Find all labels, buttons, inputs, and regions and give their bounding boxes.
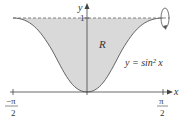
x-right-tick-denominator: 2 bbox=[160, 108, 165, 118]
y-tick-label: 1 bbox=[80, 13, 85, 23]
y-axis-label: y bbox=[77, 2, 83, 13]
volume-of-revolution-diagram: y 1 x R y = sin² x −π 2 π 2 bbox=[0, 0, 181, 119]
y-axis-arrow-icon bbox=[85, 3, 90, 9]
x-left-tick-numerator: −π bbox=[6, 96, 16, 106]
region-label: R bbox=[98, 38, 106, 50]
shaded-region-r bbox=[13, 18, 163, 92]
x-right-tick-numerator: π bbox=[159, 96, 164, 106]
x-axis-label: x bbox=[173, 86, 179, 97]
x-axis-arrow-icon bbox=[167, 90, 173, 95]
curve-label: y = sin² x bbox=[124, 57, 163, 68]
x-left-tick-denominator: 2 bbox=[11, 108, 16, 118]
rotation-arrow-icon bbox=[161, 8, 169, 30]
